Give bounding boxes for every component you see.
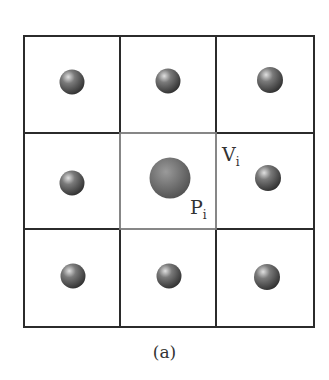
voronoi-grid-diagram: Vi Pi — [0, 0, 329, 340]
particle-sphere — [156, 69, 181, 94]
particle-sphere — [157, 264, 182, 289]
center-particle-sphere — [150, 158, 191, 199]
particle-sphere — [257, 67, 283, 93]
figure-caption: (a) — [0, 342, 329, 362]
particle-label: Pi — [190, 196, 207, 222]
particle-sphere — [60, 171, 85, 196]
voronoi-label: Vi — [221, 143, 240, 169]
particle-sphere — [61, 264, 86, 289]
particle-sphere — [254, 264, 280, 290]
particle-sphere — [255, 165, 281, 191]
particle-sphere — [60, 70, 85, 95]
